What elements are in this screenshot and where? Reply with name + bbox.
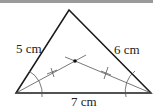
- label-bottom-side: 7 cm: [71, 94, 97, 110]
- incenter-point: [73, 59, 77, 63]
- arc-mark-right-2: [104, 67, 108, 79]
- bisector-left: [16, 61, 75, 93]
- label-left-side: 5 cm: [16, 41, 42, 57]
- bisector-right: [75, 61, 151, 93]
- label-right-side: 6 cm: [114, 42, 140, 58]
- bisector-left-extension: [75, 55, 86, 61]
